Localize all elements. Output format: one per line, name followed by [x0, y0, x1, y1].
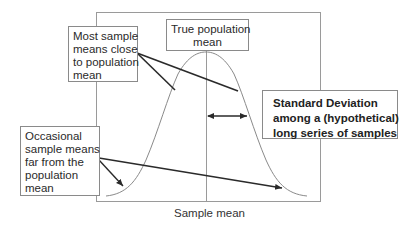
annotation-text: population: [25, 169, 95, 182]
x-axis-label: Sample mean: [174, 207, 245, 219]
annotation-text: Occasional: [25, 130, 95, 143]
pointer-arrow-occasional-2: [99, 158, 282, 188]
annotation-text: Most sample: [73, 30, 133, 43]
annotation-text: long series of samples: [273, 126, 387, 141]
annotation-text: sample means: [25, 143, 95, 156]
annotation-text: mean: [25, 182, 95, 195]
annotation-most-sample-means: Most sample means close to population me…: [68, 26, 138, 82]
annotation-text: True population: [171, 23, 244, 36]
annotation-text: means close: [73, 43, 133, 56]
annotation-true-population-mean: True population mean: [166, 19, 249, 51]
annotation-occasional-sample-means: Occasional sample means far from the pop…: [20, 126, 100, 196]
annotation-text: far from the: [25, 156, 95, 169]
pointer-arrow-occasional-1: [99, 160, 123, 186]
annotation-text: Standard Deviation: [273, 96, 387, 111]
pointer-line-most-1: [137, 53, 175, 90]
annotation-text: among a (hypothetical): [273, 111, 387, 126]
annotation-text: mean: [73, 69, 133, 82]
annotation-text: to population: [73, 56, 133, 69]
annotation-text: mean: [171, 36, 244, 49]
annotation-standard-deviation: Standard Deviation among a (hypothetical…: [262, 90, 398, 139]
